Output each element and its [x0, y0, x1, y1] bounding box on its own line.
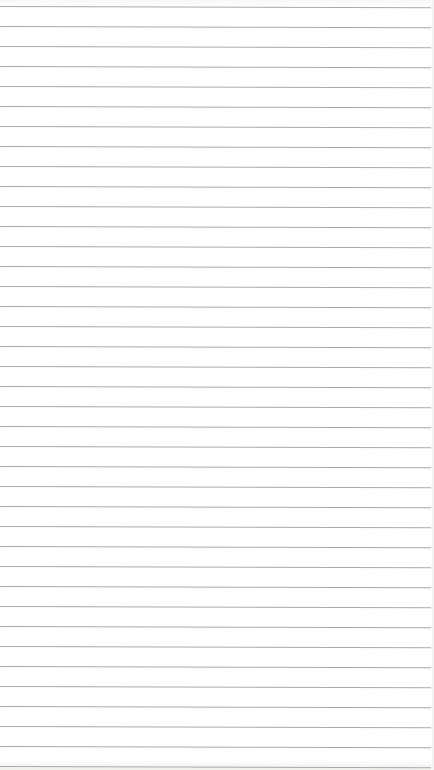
ruled-line — [0, 426, 432, 428]
ruled-line — [0, 106, 432, 108]
ruled-line — [0, 186, 432, 188]
ruled-line — [0, 646, 432, 648]
ruled-line — [0, 346, 432, 348]
ruled-line — [0, 626, 432, 628]
ruled-line — [0, 486, 432, 488]
ruled-line — [0, 46, 432, 48]
ruled-line — [0, 6, 432, 8]
ruled-line — [0, 546, 432, 548]
lined-paper — [0, 0, 434, 770]
ruled-line — [0, 386, 432, 388]
ruled-line — [0, 746, 432, 748]
ruled-line — [0, 366, 432, 368]
ruled-line — [0, 146, 432, 148]
ruled-line — [0, 26, 432, 28]
ruled-line — [0, 766, 432, 768]
ruled-line — [0, 206, 432, 208]
ruled-line — [0, 586, 432, 588]
ruled-line — [0, 606, 432, 608]
ruled-line — [0, 706, 432, 708]
ruled-line — [0, 246, 432, 248]
ruled-line — [0, 126, 432, 128]
ruled-line — [0, 226, 432, 228]
ruled-line — [0, 526, 432, 528]
ruled-line — [0, 406, 432, 408]
ruled-line — [0, 286, 432, 288]
ruled-line — [0, 266, 432, 268]
ruled-line — [0, 166, 432, 168]
ruled-line — [0, 86, 432, 88]
ruled-line — [0, 66, 432, 68]
ruled-line — [0, 726, 432, 728]
ruled-line — [0, 666, 432, 668]
ruled-line — [0, 326, 432, 328]
ruled-line — [0, 446, 432, 448]
ruled-line — [0, 686, 432, 688]
ruled-line — [0, 306, 432, 308]
ruled-line — [0, 506, 432, 508]
ruled-line — [0, 466, 432, 468]
ruled-line — [0, 566, 432, 568]
